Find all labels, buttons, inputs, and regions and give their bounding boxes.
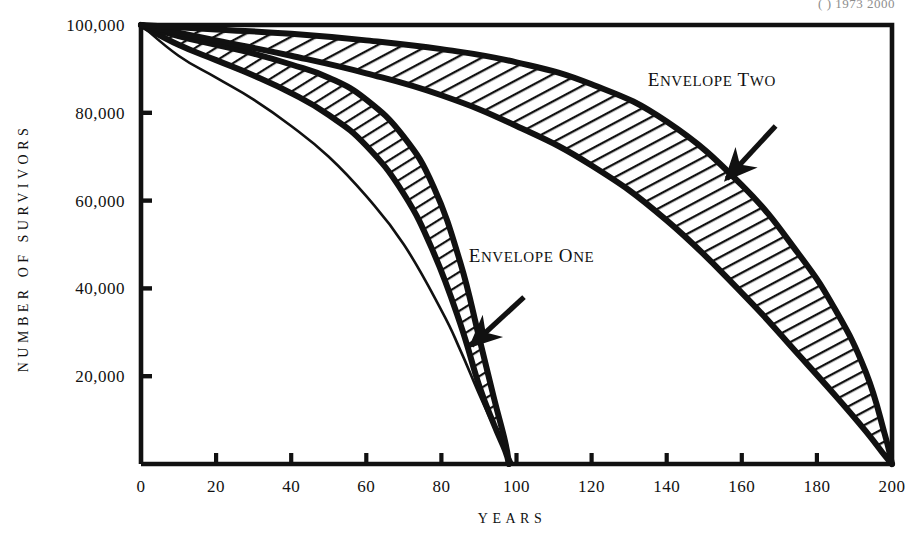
annotation-arrow (471, 297, 524, 345)
annotation-arrow (727, 126, 776, 179)
annotation-label: ENVELOPE ONE (469, 245, 595, 266)
x-tick-label: 40 (282, 477, 300, 496)
y-tick-label: 20,000 (75, 367, 125, 386)
x-tick-label: 120 (578, 477, 605, 496)
chart-canvas: 20,00040,00060,00080,000100,000 02040608… (0, 0, 909, 538)
x-tick-label: 200 (879, 477, 906, 496)
x-tick-label: 100 (503, 477, 530, 496)
y-tick-label: 40,000 (75, 279, 125, 298)
x-axis-title: YEARS (478, 511, 546, 526)
x-tick-label: 160 (728, 477, 755, 496)
survival-curve-figure: ( ) 1973 2000 20,00040,00060,00080,00010… (0, 0, 909, 538)
caption-fragment: ( ) 1973 2000 (818, 0, 895, 12)
x-tick-label: 180 (803, 477, 830, 496)
envelope-bands (141, 25, 892, 464)
y-axis-title: NUMBER OF SURVIVORS (16, 124, 31, 373)
x-tick-label: 60 (357, 477, 375, 496)
x-tick-label: 80 (432, 477, 450, 496)
y-tick-label: 100,000 (66, 16, 125, 35)
y-tick-label: 80,000 (75, 104, 125, 123)
y-tick-label: 60,000 (75, 192, 125, 211)
x-tick-label: 0 (137, 477, 146, 496)
x-tick-labels: 020406080100120140160180200 (137, 477, 906, 496)
annotation-label: ENVELOPE TWO (648, 69, 776, 90)
x-tick-label: 20 (207, 477, 225, 496)
y-tick-labels: 20,00040,00060,00080,000100,000 (66, 16, 125, 386)
envelope-band (141, 25, 892, 464)
x-tick-label: 140 (653, 477, 680, 496)
